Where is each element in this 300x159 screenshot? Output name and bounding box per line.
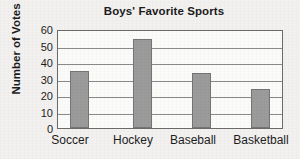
bars-layer — [58, 31, 282, 128]
y-tick-label: 60 — [27, 24, 53, 36]
bar-soccer — [70, 71, 89, 128]
x-tick-label-hockey: Hockey — [103, 133, 163, 147]
x-tick-label-baseball: Baseball — [160, 133, 226, 147]
x-tick-label-basketball: Basketball — [224, 133, 298, 147]
bar-baseball — [192, 73, 211, 128]
bar-chart-screenshot: Boys' Favorite Sports Number of Votes 60… — [0, 0, 300, 159]
y-tick-label: 40 — [27, 57, 53, 69]
bar-hockey — [133, 39, 152, 128]
y-axis-tick-labels: 60 50 40 30 20 10 0 — [25, 30, 53, 129]
y-tick-label: 50 — [27, 41, 53, 53]
y-tick-label: 30 — [27, 74, 53, 86]
y-tick-label: 20 — [27, 90, 53, 102]
chart-title: Boys' Favorite Sports — [0, 5, 300, 17]
x-tick-label-soccer: Soccer — [40, 133, 100, 147]
y-tick-label: 10 — [27, 107, 53, 119]
bar-basketball — [251, 89, 270, 128]
y-axis-title: Number of Votes — [10, 0, 22, 99]
